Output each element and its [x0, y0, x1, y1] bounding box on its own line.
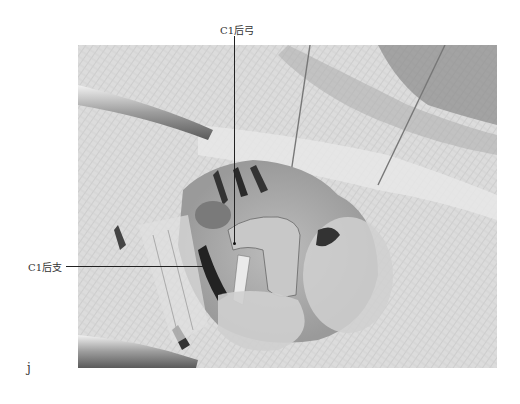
panel-label: j	[27, 361, 31, 375]
leader-line-c1-posterior-arch	[234, 36, 235, 244]
surgical-photo-illustration	[78, 45, 497, 368]
leader-endpoint-c1-posterior-arch	[233, 242, 236, 245]
leader-line-c1-posterior-ramus	[66, 266, 214, 267]
annotation-c1-posterior-arch: C1后弓	[220, 22, 254, 37]
surgical-photo	[78, 45, 497, 368]
annotation-c1-posterior-ramus: C1后支	[28, 259, 62, 274]
